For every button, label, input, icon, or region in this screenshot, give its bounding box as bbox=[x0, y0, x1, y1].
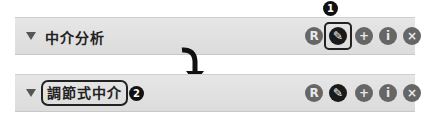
callout-badge-1: 1 bbox=[323, 1, 338, 16]
r-icon[interactable]: R bbox=[305, 84, 323, 102]
info-icon[interactable]: i bbox=[379, 84, 397, 102]
panel-title-highlighted: 調節式中介 bbox=[41, 80, 128, 106]
close-x-icon[interactable]: × bbox=[403, 84, 421, 102]
info-icon[interactable]: i bbox=[379, 27, 397, 45]
edit-pencil-icon[interactable]: ✎ bbox=[329, 27, 347, 45]
add-plus-icon[interactable]: + bbox=[355, 27, 373, 45]
panel-header-moderated-mediation[interactable]: 調節式中介 2 R ✎ + i × bbox=[15, 74, 415, 112]
edit-pencil-icon[interactable]: ✎ bbox=[329, 84, 347, 102]
close-x-icon[interactable]: × bbox=[403, 27, 421, 45]
collapse-caret-icon[interactable] bbox=[26, 89, 36, 97]
r-icon[interactable]: R bbox=[305, 27, 323, 45]
panel-title: 中介分析 bbox=[45, 27, 105, 47]
add-plus-icon[interactable]: + bbox=[355, 84, 373, 102]
callout-badge-2: 2 bbox=[129, 86, 144, 101]
panel-header-mediation[interactable]: 中介分析 R ✎ + i × bbox=[15, 17, 415, 55]
collapse-caret-icon[interactable] bbox=[26, 32, 36, 40]
